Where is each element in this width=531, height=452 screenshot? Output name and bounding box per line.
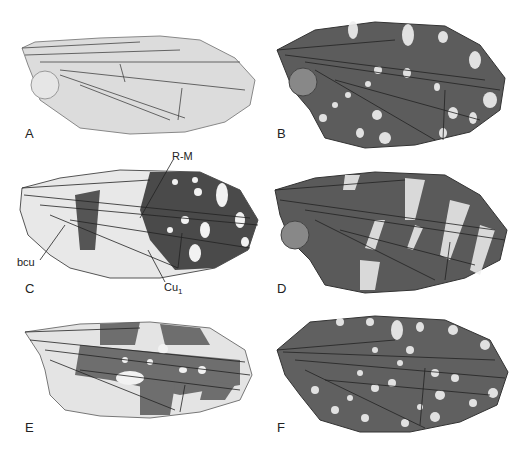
wing-d-illustration xyxy=(265,150,531,300)
wing-a-illustration xyxy=(0,0,265,150)
wing-b-illustration xyxy=(265,0,531,150)
wing-panel-e: E xyxy=(0,300,265,452)
annotation-cu1: Cu1 xyxy=(164,281,183,296)
panel-label-f: F xyxy=(277,420,285,435)
wing-panel-b: B xyxy=(265,0,531,150)
panel-label-c: C xyxy=(25,281,34,296)
panel-label-e: E xyxy=(25,420,34,435)
annotation-rm: R-M xyxy=(172,150,193,162)
panel-label-d: D xyxy=(277,281,286,296)
wing-f-illustration xyxy=(265,300,531,452)
annotation-cu1-subscript: 1 xyxy=(178,287,182,296)
annotation-bcu: bcu xyxy=(17,256,35,268)
wing-c-illustration xyxy=(0,150,265,300)
wing-panel-f: F xyxy=(265,300,531,452)
wing-panel-a: A xyxy=(0,0,265,150)
annotation-cu1-base: Cu xyxy=(164,281,178,293)
wing-panel-c: R-M bcu Cu1 C xyxy=(0,150,265,300)
wing-panel-d: D xyxy=(265,150,531,300)
panel-label-a: A xyxy=(25,126,34,141)
wing-e-illustration xyxy=(0,300,265,452)
panel-label-b: B xyxy=(277,126,286,141)
